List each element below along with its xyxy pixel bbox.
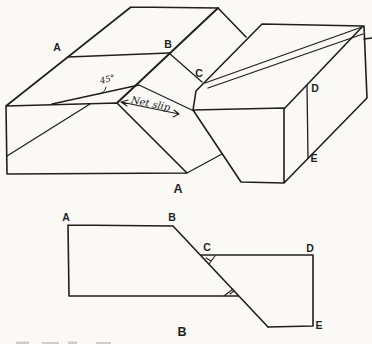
map-label-b: B bbox=[168, 211, 176, 223]
point-label-b: B bbox=[164, 38, 172, 50]
map-diagram: A B C D E B bbox=[62, 211, 322, 339]
map-label-e: E bbox=[315, 319, 322, 331]
dike-right-block bbox=[205, 27, 372, 158]
map-label-a: A bbox=[62, 211, 70, 223]
point-label-e: E bbox=[310, 152, 317, 164]
angle-label: 45° bbox=[98, 72, 116, 86]
map-label-d: D bbox=[306, 242, 314, 254]
right-block-edges bbox=[193, 24, 367, 183]
block-diagram: 45° Net slip A B C D E A bbox=[6, 7, 372, 196]
point-label-c: C bbox=[195, 67, 203, 79]
scanned-figure-page: 45° Net slip A B C D E A A B C D E B bbox=[0, 0, 372, 344]
fault-trace-top-surface bbox=[117, 8, 218, 103]
block-diagram-caption: A bbox=[173, 182, 182, 196]
map-diagram-caption: B bbox=[177, 325, 186, 339]
point-label-a: A bbox=[53, 41, 61, 53]
left-block-edges bbox=[6, 7, 246, 174]
map-label-c: C bbox=[203, 241, 211, 253]
fault-figure-svg: 45° Net slip A B C D E A A B C D E B bbox=[0, 0, 372, 344]
map-left-block bbox=[68, 225, 268, 327]
point-label-d: D bbox=[311, 82, 319, 94]
